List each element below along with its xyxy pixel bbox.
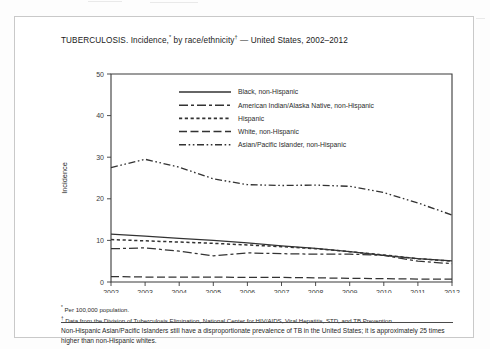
axis-titles: YearIncidence xyxy=(60,162,290,293)
svg-text:20: 20 xyxy=(96,195,104,202)
svg-text:2003: 2003 xyxy=(137,289,153,293)
legend-label: Black, non-Hispanic xyxy=(238,88,299,96)
screenshot-page: TUBERCULOSIS. Incidence,* by race/ethnic… xyxy=(0,0,490,349)
svg-text:2009: 2009 xyxy=(342,289,358,293)
x-axis-ticks: 2002200320042005200620072008200920102011… xyxy=(103,282,460,293)
legend-label: American Indian/Alaska Native, non-Hispa… xyxy=(238,102,375,110)
svg-text:50: 50 xyxy=(96,71,104,78)
svg-text:2010: 2010 xyxy=(376,289,392,293)
legend-label: Asian/Pacific Islander, non-Hispanic xyxy=(238,141,347,149)
series-line xyxy=(111,248,452,264)
figure-caption: Non-Hispanic Asian/Pacific Islanders sti… xyxy=(61,326,453,346)
scan-artifact xyxy=(150,2,198,3)
footnote-text-2: Data from the Division of Tuberculosis E… xyxy=(64,317,394,324)
series-line xyxy=(111,277,452,280)
horizontal-rule xyxy=(61,322,453,323)
svg-text:2002: 2002 xyxy=(103,289,119,293)
series-lines xyxy=(111,159,452,279)
legend-label: White, non-Hispanic xyxy=(238,128,299,136)
svg-text:2011: 2011 xyxy=(410,289,425,293)
svg-text:2005: 2005 xyxy=(206,289,222,293)
svg-text:2012: 2012 xyxy=(444,289,460,293)
svg-text:2008: 2008 xyxy=(308,289,324,293)
figure-container: TUBERCULOSIS. Incidence,* by race/ethnic… xyxy=(14,16,474,338)
scan-artifact xyxy=(88,1,122,2)
svg-text:2006: 2006 xyxy=(240,289,256,293)
line-chart: 01020304050 2002200320042005200620072008… xyxy=(45,43,465,293)
chart-legend: Black, non-HispanicAmerican Indian/Alask… xyxy=(179,88,375,149)
svg-text:0: 0 xyxy=(100,279,104,286)
y-axis-ticks: 01020304050 xyxy=(96,71,111,286)
svg-text:2007: 2007 xyxy=(274,289,290,293)
svg-text:40: 40 xyxy=(96,112,104,119)
legend-label: Hispanic xyxy=(238,115,265,123)
footnote-text-1: Per 100,000 population. xyxy=(63,306,129,313)
series-line xyxy=(111,159,452,215)
chart-svg: 01020304050 2002200320042005200620072008… xyxy=(45,43,465,293)
footnote-dagger: † Data from the Division of Tuberculosis… xyxy=(61,314,461,325)
svg-text:10: 10 xyxy=(96,237,104,244)
svg-text:30: 30 xyxy=(96,154,104,161)
svg-text:2004: 2004 xyxy=(171,289,187,293)
svg-text:Incidence: Incidence xyxy=(60,162,69,194)
footnote-asterisk: * Per 100,000 population. xyxy=(61,303,461,314)
scan-artifact xyxy=(476,18,485,19)
